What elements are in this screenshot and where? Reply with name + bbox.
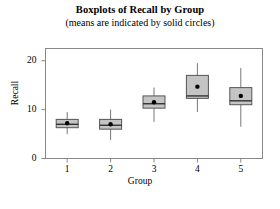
boxplot-group-2 [100, 110, 122, 140]
boxplot-group-3 [143, 88, 165, 122]
y-axis-title: Recall [10, 63, 20, 123]
x-axis-title: Group [0, 176, 280, 186]
x-tick-label: 1 [59, 164, 75, 174]
boxplot-figure: Boxplots of Recall by Group (means are i… [0, 0, 280, 209]
y-tick-label: 20 [15, 55, 37, 65]
y-tick-label: 0 [15, 153, 37, 163]
boxplot-group-4 [186, 63, 208, 112]
boxplot-group-5 [230, 68, 252, 127]
boxplot-group-1 [56, 112, 78, 134]
x-tick-label: 3 [146, 164, 162, 174]
x-tick-label: 2 [103, 164, 119, 174]
y-tick-label: 10 [15, 104, 37, 114]
x-tick-label: 5 [233, 164, 249, 174]
axis-ticks [42, 61, 241, 163]
x-tick-label: 4 [189, 164, 205, 174]
boxplot-series [56, 63, 252, 140]
